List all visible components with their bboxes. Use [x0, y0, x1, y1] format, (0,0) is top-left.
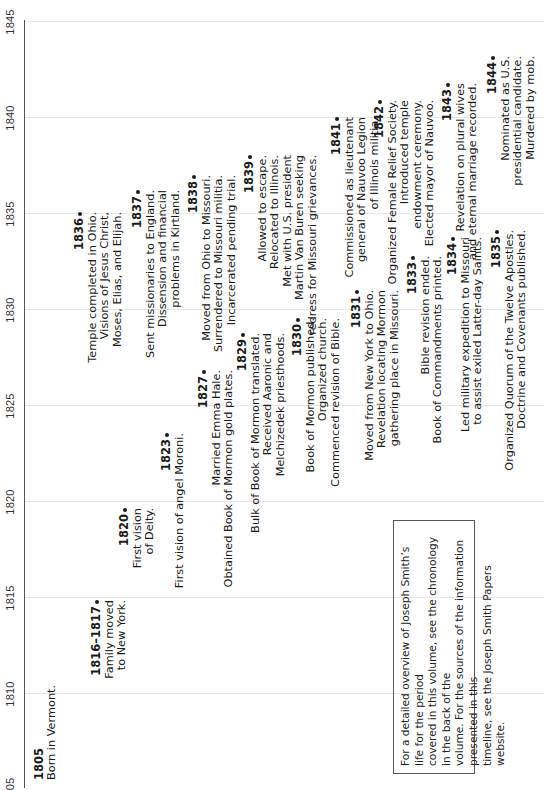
tick-1810: 1810	[4, 681, 16, 706]
event-1830: 1830 Book of Mormon published. Organized…	[291, 318, 342, 487]
tick-1835: 1835	[4, 201, 16, 226]
tick-1830: 1830	[4, 297, 16, 322]
tick-1845: 1845	[4, 9, 16, 34]
bullet-icon	[355, 290, 359, 294]
event-1827: 1827 Married Emma Hale. Obtained Book of…	[197, 370, 236, 587]
bullet-icon	[123, 508, 127, 512]
event-1837: 1837 Sent missionaries to England. Disse…	[131, 190, 182, 358]
event-1842: 1842 Organized Female Relief Society. In…	[373, 100, 437, 284]
bullet-icon	[95, 600, 99, 604]
event-1838: 1838 Moved from Ohio to Missouri. Surren…	[187, 175, 238, 352]
event-1839: 1839 Allowed to escape. Relocated to Ill…	[243, 155, 320, 335]
event-1823: 1823 First vision of angel Moroni.	[160, 433, 186, 588]
gridline-1845	[24, 21, 544, 22]
tick-1815: 1815	[4, 585, 16, 610]
tick-1805: 05	[4, 778, 16, 790]
event-1836: 1836 Temple completed in Ohio. Visions o…	[73, 212, 124, 363]
bullet-icon	[335, 117, 339, 121]
event-1835: 1835 Organized Quorum of the Twelve Apos…	[490, 230, 529, 471]
event-1834: 1834 Led military expedition to Missouri…	[446, 237, 485, 432]
event-1831: 1831 Moved from New York to Ohio. Revela…	[350, 290, 401, 461]
bullet-icon	[495, 230, 499, 234]
tick-1825: 1825	[4, 393, 16, 418]
bullet-icon	[378, 100, 382, 104]
bullet-icon	[248, 155, 252, 159]
tick-1840: 1840	[4, 105, 16, 130]
event-1843: 1843 Revelation on plural wives and eter…	[441, 83, 480, 260]
event-1820: 1820 First vision of Deity.	[118, 508, 157, 568]
event-1816-1817: 1816–1817 Family moved to New York.	[90, 600, 129, 679]
source-note-box: For a detailed overview of Joseph Smith’…	[393, 520, 475, 774]
bullet-icon	[165, 433, 169, 437]
bullet-icon	[192, 175, 196, 179]
event-1829: 1829 Bulk of Book of Mormon translated. …	[236, 333, 287, 533]
bullet-icon	[491, 56, 495, 60]
event-1805: 1805 Born in Vermont.	[33, 685, 58, 780]
bullet-icon	[78, 212, 82, 216]
tick-1820: 1820	[4, 489, 16, 514]
bullet-icon	[446, 83, 450, 87]
bullet-icon	[202, 370, 206, 374]
time-axis	[24, 20, 25, 788]
bullet-icon	[136, 190, 140, 194]
event-1844: 1844 Nominated as U.S. presidential cand…	[486, 56, 537, 186]
